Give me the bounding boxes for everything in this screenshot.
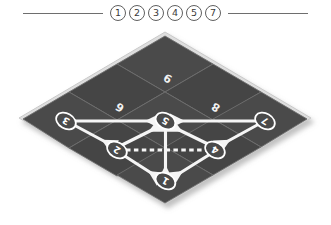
isometric-board: 9 6 8 [0,20,331,225]
legend-chip-group: 1 2 3 4 5 7 [110,5,221,21]
legend-chip-7: 7 [205,5,221,21]
board-canvas: 9 6 8 [0,20,331,225]
legend-chip-1: 1 [110,5,126,21]
screenshot-root: 1 2 3 4 5 7 [0,0,331,225]
legend-rule-left [23,13,103,14]
legend-chip-4: 4 [167,5,183,21]
legend-chip-5: 5 [186,5,202,21]
legend-chip-3: 3 [148,5,164,21]
legend-chip-2: 2 [129,5,145,21]
legend-rule-right [228,13,308,14]
